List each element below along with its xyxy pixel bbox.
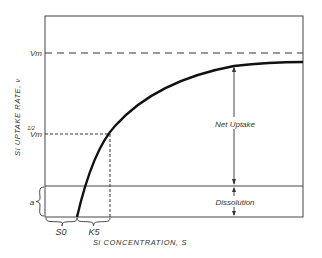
x-axis-title: Si CONCENTRATION, S bbox=[93, 238, 187, 247]
dissolution-arrowhead-down bbox=[232, 211, 236, 216]
net-uptake-arrowhead-down bbox=[232, 179, 236, 185]
vm-label: Vm bbox=[30, 49, 42, 58]
net-uptake-label: Net Uptake bbox=[215, 120, 256, 129]
ks-label: K5 bbox=[88, 227, 100, 237]
ks-brace bbox=[77, 218, 110, 226]
dissolution-arrowhead-up bbox=[232, 187, 236, 192]
dissolution-label: Dissolution bbox=[215, 198, 255, 207]
y-axis-title: Si UPTAKE RATE, v bbox=[13, 77, 22, 156]
s0-label: S0 bbox=[55, 227, 66, 237]
uptake-rate-diagram: Net Uptake Dissolution Vm 1/2 Vm a S0 K5… bbox=[0, 0, 322, 258]
a-label: a bbox=[30, 198, 35, 207]
a-brace bbox=[36, 187, 44, 216]
s0-brace bbox=[46, 218, 77, 226]
plot-frame bbox=[45, 16, 303, 217]
half-vm-label: Vm bbox=[30, 130, 42, 139]
uptake-curve bbox=[77, 62, 303, 217]
